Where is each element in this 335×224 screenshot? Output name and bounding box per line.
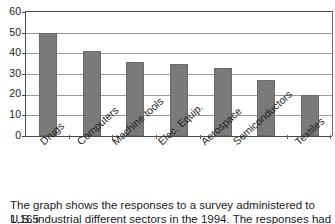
y-tick-label: 0 bbox=[1, 130, 21, 140]
y-tick-label: 50 bbox=[1, 27, 21, 37]
y-tick-label: 10 bbox=[1, 109, 21, 119]
bar-chart-figure: 60 50 40 30 20 10 0 bbox=[0, 0, 335, 196]
y-tick-label: 20 bbox=[1, 88, 21, 98]
bar-drugs bbox=[39, 33, 57, 136]
y-axis-labels: 60 50 40 30 20 10 0 bbox=[0, 0, 21, 196]
x-axis-labels: Drugs Computers Machine tools Elec. Equi… bbox=[25, 139, 335, 196]
y-tick-label: 30 bbox=[1, 68, 21, 78]
y-tick-label: 60 bbox=[1, 6, 21, 16]
y-tick-label: 40 bbox=[1, 47, 21, 57]
caption-line-2-clipped: U.S. industrial different sectors in the… bbox=[10, 213, 332, 224]
